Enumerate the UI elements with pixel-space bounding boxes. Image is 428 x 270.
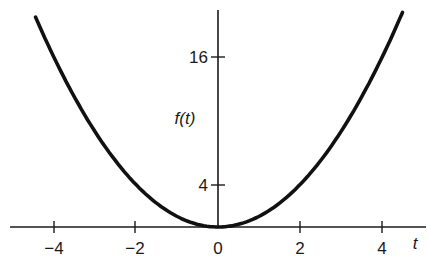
plot-canvas: −4 −2 0 2 4 16 4 t f(t): [0, 0, 428, 270]
x-tick-label: 0: [213, 239, 222, 258]
y-tick-label: 16: [189, 48, 208, 67]
y-tick-label: 4: [199, 176, 208, 195]
x-tick-label: −2: [125, 239, 144, 258]
x-tick-label: −4: [44, 239, 63, 258]
x-tick-label: 4: [377, 239, 386, 258]
parabola-curve: [36, 12, 403, 227]
x-axis-label: t: [413, 234, 419, 253]
y-axis-label: f(t): [175, 109, 196, 128]
x-tick-label: 2: [295, 239, 304, 258]
